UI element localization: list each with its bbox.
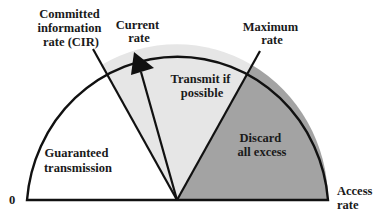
zero-label: 0: [9, 193, 15, 207]
access-rate-label: Access rate: [337, 184, 376, 212]
current-rate-label: Current rate: [116, 18, 163, 45]
rate-gauge-diagram: Committed information rate (CIR) Current…: [0, 0, 381, 221]
cir-label: Committed information rate (CIR): [37, 7, 104, 49]
maximum-rate-label: Maximum rate: [243, 20, 302, 47]
discard-label: Discard all excess: [238, 131, 287, 159]
guaranteed-label: Guaranteed transmission: [44, 146, 112, 175]
